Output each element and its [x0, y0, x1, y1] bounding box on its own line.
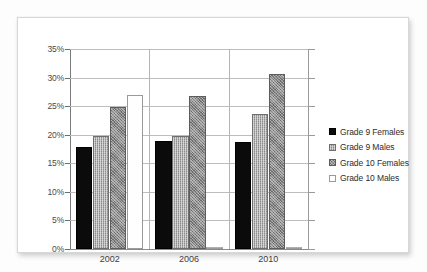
legend-swatch-icon	[329, 175, 336, 182]
y-tick-mark	[65, 106, 70, 107]
x-axis-tick-label: 2010	[258, 254, 278, 264]
y-axis-tick-label: 10%	[20, 187, 64, 197]
y-tick-mark	[65, 135, 70, 136]
right-tick-mark	[309, 106, 315, 107]
chart-card-inner: 0%5%10%15%20%25%30%35% 200220062010 Grad…	[18, 18, 408, 252]
right-tick-mark	[309, 220, 315, 221]
legend-label: Grade 10 Males	[340, 173, 399, 183]
legend-swatch-icon	[329, 144, 336, 151]
right-tick-mark	[309, 49, 315, 50]
group-separator	[149, 49, 150, 249]
chart-legend: Grade 9 FemalesGrade 9 MalesGrade 10 Fem…	[329, 124, 427, 186]
plot-area	[70, 49, 308, 249]
bar	[172, 136, 189, 249]
y-tick-mark	[65, 49, 70, 50]
y-axis-tick-label: 25%	[20, 101, 64, 111]
chart-card: 0%5%10%15%20%25%30%35% 200220062010 Grad…	[17, 17, 409, 253]
y-tick-mark	[65, 220, 70, 221]
right-tick-mark	[309, 249, 315, 250]
y-axis-tick-label: 30%	[20, 73, 64, 83]
gridline-0%	[70, 249, 308, 250]
right-tick-mark	[309, 135, 315, 136]
bar	[189, 96, 206, 249]
bar	[93, 136, 110, 249]
right-tick-mark	[309, 192, 315, 193]
x-axis-labels: 200220062010	[70, 254, 308, 268]
bar	[252, 114, 269, 249]
group-separator	[229, 49, 230, 249]
right-tick-mark	[309, 78, 315, 79]
y-axis-tick-label: 15%	[20, 158, 64, 168]
bar	[127, 95, 144, 249]
chart-page: 0%5%10%15%20%25%30%35% 200220062010 Grad…	[0, 0, 427, 272]
x-axis-tick-label: 2002	[100, 254, 120, 264]
legend-label: Grade 10 Females	[340, 158, 409, 168]
y-tick-mark	[65, 249, 70, 250]
legend-item[interactable]: Grade 9 Males	[329, 140, 427, 156]
legend-label: Grade 9 Males	[340, 142, 394, 152]
bar	[110, 107, 127, 249]
x-axis-tick-label: 2006	[179, 254, 199, 264]
gridline-35%	[70, 49, 308, 50]
bar	[155, 141, 172, 249]
bar	[286, 247, 303, 249]
y-tick-mark	[65, 163, 70, 164]
y-axis-labels: 0%5%10%15%20%25%30%35%	[18, 49, 64, 250]
legend-swatch-icon	[329, 128, 336, 135]
legend-item[interactable]: Grade 10 Females	[329, 155, 427, 171]
y-axis-tick-label: 35%	[20, 44, 64, 54]
bar	[76, 147, 93, 249]
y-axis-tick-label: 5%	[20, 215, 64, 225]
bar	[269, 74, 286, 249]
y-axis-tick-label: 0%	[20, 244, 64, 254]
legend-item[interactable]: Grade 10 Males	[329, 171, 427, 187]
y-tick-mark	[65, 192, 70, 193]
y-axis-tick-label: 20%	[20, 130, 64, 140]
legend-label: Grade 9 Females	[340, 127, 404, 137]
bar	[235, 142, 252, 249]
right-tick-mark	[309, 163, 315, 164]
legend-swatch-icon	[329, 159, 336, 166]
legend-item[interactable]: Grade 9 Females	[329, 124, 427, 140]
y-tick-mark	[65, 78, 70, 79]
bar	[206, 247, 223, 249]
